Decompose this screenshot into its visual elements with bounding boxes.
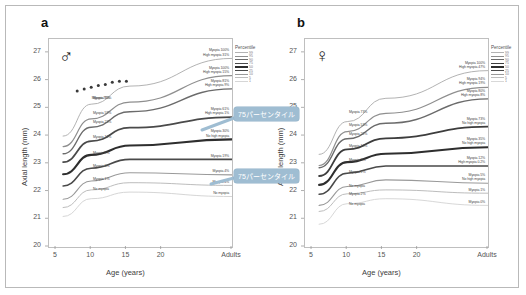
callout-tails	[6, 6, 520, 289]
callout-tail-0	[202, 118, 234, 130]
callout-tail-1	[211, 178, 234, 184]
figure-frame: a Axial length (mm) Age (years) ♂ 272625…	[5, 5, 519, 288]
callout-75th-percentile-lower[interactable]: 75パーセンタイル	[234, 169, 299, 183]
callout-75th-percentile-upper[interactable]: 75パーセンタイル	[234, 107, 299, 121]
